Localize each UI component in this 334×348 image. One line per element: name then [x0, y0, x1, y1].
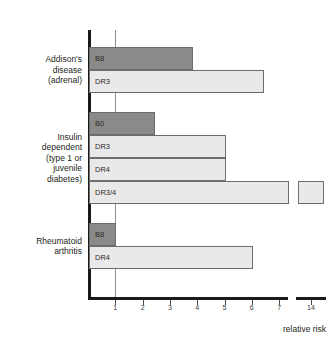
- x-axis-line-main: [88, 297, 288, 300]
- bar-B8: B8: [89, 47, 193, 70]
- x-tick-label-2: 2: [141, 304, 145, 311]
- bar-DR4: DR4: [89, 246, 253, 269]
- x-tick-label-1: 1: [113, 304, 117, 311]
- bar-label: DR4: [90, 165, 110, 174]
- bar-B8: B8: [89, 223, 116, 246]
- bar-label: B8: [90, 54, 104, 63]
- bar-label: B8: [90, 230, 104, 239]
- bar-label: DR3/4: [90, 188, 116, 197]
- x-tick-label-6: 6: [250, 304, 254, 311]
- bar-DR3: DR3: [89, 135, 226, 158]
- x-tick-label-7: 7: [277, 304, 281, 311]
- x-tick-label-4: 4: [195, 304, 199, 311]
- bar-B0: B0: [89, 112, 155, 135]
- bar-label: DR3: [90, 77, 110, 86]
- category-label-1: Insulin dependent (type 1 or juvenile di…: [42, 132, 82, 185]
- bar-DR4: DR4: [89, 158, 226, 181]
- x-tick-label-3: 3: [168, 304, 172, 311]
- bar-DR3-4: DR3/4: [89, 181, 289, 204]
- category-label-2: Rheumatoid arthritis: [36, 236, 82, 257]
- relative-risk-bar-chart: 123456714 Addison's disease (adrenal)Ins…: [0, 0, 334, 348]
- x-tick-label-5: 5: [223, 304, 227, 311]
- x-tick-label-14: 14: [307, 304, 315, 311]
- bar-DR3: DR3: [89, 70, 264, 93]
- bar-label: DR3: [90, 142, 110, 151]
- bar-label: DR4: [90, 253, 110, 262]
- bar-label: B0: [90, 119, 104, 128]
- x-axis-title: relative risk: [283, 324, 326, 334]
- bar-continuation-DR3-4: [298, 181, 324, 204]
- category-label-0: Addison's disease (adrenal): [45, 54, 82, 86]
